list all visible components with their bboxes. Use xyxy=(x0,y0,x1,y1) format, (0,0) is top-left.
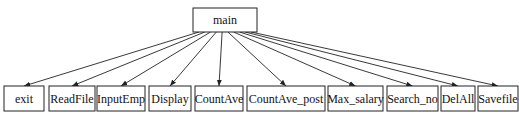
node-countave-label: CountAve xyxy=(195,92,243,106)
edge-main-to-exit xyxy=(24,32,199,86)
node-readfile: ReadFile xyxy=(49,86,95,111)
node-search-no-label: Search_no xyxy=(387,92,438,106)
edge-main-to-inputemp xyxy=(121,32,211,86)
node-exit: exit xyxy=(4,86,44,111)
node-readfile-label: ReadFile xyxy=(50,92,93,106)
node-savefile: Savefile xyxy=(478,86,518,111)
edge xyxy=(234,32,356,86)
edge xyxy=(72,32,205,86)
edge xyxy=(219,32,222,86)
edge-main-to-savefile xyxy=(251,32,498,86)
node-delall: DelAll xyxy=(441,86,475,111)
edges-group xyxy=(24,32,498,86)
call-tree-diagram: main exit ReadFile InputEmp Display Coun… xyxy=(0,0,519,120)
edge xyxy=(239,32,412,86)
node-inputemp: InputEmp xyxy=(97,86,145,111)
node-delall-label: DelAll xyxy=(442,92,475,106)
node-savefile-label: Savefile xyxy=(478,92,517,106)
edge xyxy=(121,32,211,86)
node-main-label: main xyxy=(213,13,237,27)
node-exit-label: exit xyxy=(15,92,34,106)
edge xyxy=(170,32,216,86)
node-max-salary-label: Max_salary xyxy=(327,92,384,106)
edge-main-to-max-salary xyxy=(234,32,356,86)
edge-main-to-readfile xyxy=(72,32,205,86)
edge xyxy=(251,32,498,86)
nodes-group: main exit ReadFile InputEmp Display Coun… xyxy=(4,8,518,111)
edge-main-to-display xyxy=(170,32,216,86)
edge-main-to-countave xyxy=(219,32,222,86)
node-countave-post-label: CountAve_post xyxy=(249,92,324,106)
node-display-label: Display xyxy=(151,92,188,106)
edge-main-to-search-no xyxy=(239,32,412,86)
node-countave-post: CountAve_post xyxy=(247,86,325,111)
node-countave: CountAve xyxy=(195,86,243,111)
edge xyxy=(24,32,199,86)
node-display: Display xyxy=(149,86,191,111)
node-inputemp-label: InputEmp xyxy=(97,92,145,106)
node-search-no: Search_no xyxy=(387,86,438,111)
node-max-salary: Max_salary xyxy=(327,86,384,111)
node-main: main xyxy=(193,8,257,32)
